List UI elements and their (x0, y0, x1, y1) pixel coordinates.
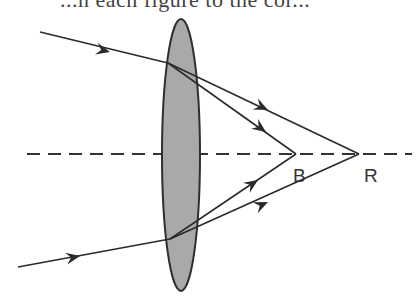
arrow-icon (253, 197, 271, 214)
upper-incident-ray (40, 32, 168, 63)
lower-incident-ray (18, 239, 170, 267)
label-r: R (364, 165, 378, 186)
arrow-icon (253, 99, 271, 116)
arrow-icon (251, 119, 269, 137)
convex-lens (162, 19, 200, 291)
label-b: B (293, 165, 306, 186)
lens-diagram: B R (0, 0, 418, 298)
arrow-icon (243, 175, 261, 193)
